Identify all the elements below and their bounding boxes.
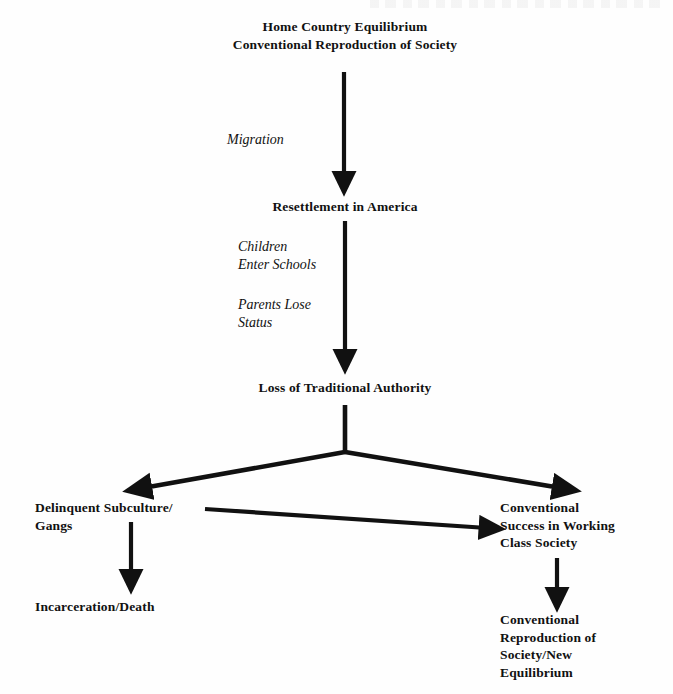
node-home-country-equilibrium: Home Country Equilibrium Conventional Re… (233, 18, 458, 53)
arrow-branch-right (345, 452, 561, 488)
flowchart-canvas: Home Country Equilibrium Conventional Re… (0, 0, 673, 694)
node-delinquent-subculture-gangs: Delinquent Subculture/ Gangs (35, 499, 173, 534)
node-conventional-reproduction-new-equilibrium: Conventional Reproduction of Society/New… (500, 611, 596, 681)
edge-label-migration: Migration (227, 131, 284, 149)
node-incarceration-death: Incarceration/Death (35, 598, 155, 616)
edge-label-children-enter-schools: Children Enter Schools (238, 238, 316, 274)
arrow-delinquent-to-success (205, 509, 487, 528)
connector-layer (0, 0, 673, 694)
node-resettlement-in-america: Resettlement in America (272, 198, 417, 216)
node-loss-of-traditional-authority: Loss of Traditional Authority (258, 379, 431, 397)
edge-label-parents-lose-status: Parents Lose Status (238, 296, 311, 332)
page-edge-artifact (370, 0, 660, 8)
node-conventional-success-working-class: Conventional Success in Working Class So… (500, 499, 615, 552)
arrow-branch-left (143, 452, 345, 488)
